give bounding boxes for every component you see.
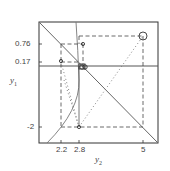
dashed-inner-rect [61, 44, 83, 127]
dotted-paths [61, 36, 143, 127]
curve [47, 22, 79, 143]
markers [59, 32, 147, 129]
dashed-outer-rect [61, 36, 143, 127]
x-tick-label: 5 [141, 146, 145, 154]
diagonal-line [39, 22, 158, 143]
y-tick-label: 0.17 [15, 58, 31, 66]
x-axis-title: y2 [95, 154, 102, 166]
y-axis-title: y1 [10, 75, 17, 87]
x-tick-label: 2.8 [74, 146, 85, 154]
x-tick-label: 2.2 [56, 146, 67, 154]
y-tick-label: -2 [27, 123, 34, 131]
y-tick-label: 0.76 [15, 40, 31, 48]
phase-diagram: 0.76 0.17 -2 2.2 2.8 5 y1 y2 [0, 0, 170, 171]
